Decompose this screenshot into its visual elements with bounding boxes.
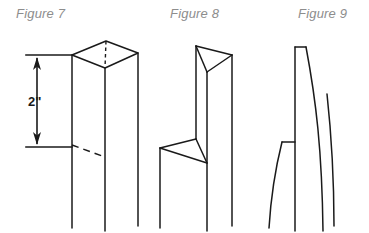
taper-layout-dashed-line — [72, 145, 105, 157]
post-top-center-hidden-line — [105, 41, 106, 68]
post-body-outline — [72, 41, 138, 231]
post-notch-facet — [160, 139, 207, 163]
figure-8-drawing — [148, 0, 260, 233]
post-edge-right — [327, 94, 334, 226]
figure-sheet: Figure 7 2" — [0, 0, 369, 233]
figure-panel-8: Figure 8 — [148, 0, 260, 233]
post-curved-taper-left — [269, 142, 282, 228]
figure-7-drawing: 2" — [0, 0, 148, 233]
taper-start-dimension-label: 2" — [28, 94, 41, 109]
post-top-facet — [196, 46, 232, 72]
post-curved-taper-right — [306, 47, 323, 231]
figure-panel-7: Figure 7 2" — [0, 0, 148, 233]
figure-panel-9: Figure 9 — [260, 0, 369, 233]
figure-9-drawing — [260, 0, 369, 233]
